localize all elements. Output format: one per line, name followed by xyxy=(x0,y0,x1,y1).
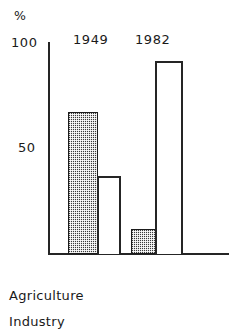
group-label-1982: 1982 xyxy=(135,33,170,46)
y-axis-tick-100: 100 xyxy=(11,36,38,49)
group-label-1949: 1949 xyxy=(73,33,108,46)
y-axis-tick-50: 50 xyxy=(18,141,36,154)
legend-item-agriculture: Agriculture xyxy=(9,283,219,309)
bar-industry-1982 xyxy=(155,61,183,254)
y-axis-line xyxy=(48,42,50,255)
bar-agriculture-1982 xyxy=(131,229,157,254)
bar-agriculture-1949 xyxy=(68,112,98,254)
legend: Agriculture Industry xyxy=(9,283,219,335)
y-axis-unit-label: % xyxy=(14,10,26,23)
bar-industry-1949 xyxy=(97,176,121,254)
bar-chart: % 100 50 1949 1982 Agriculture Industry xyxy=(0,0,233,335)
legend-item-industry: Industry xyxy=(9,309,219,335)
